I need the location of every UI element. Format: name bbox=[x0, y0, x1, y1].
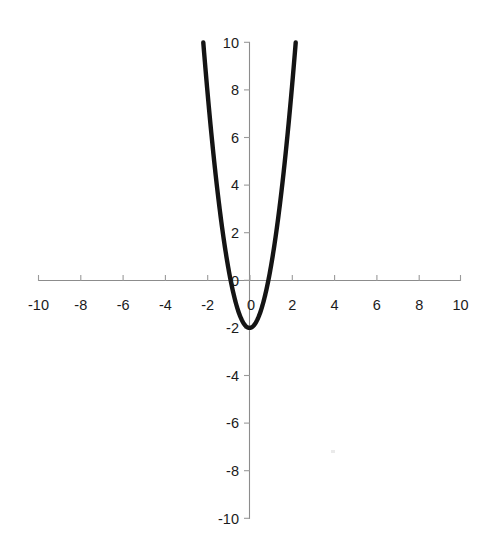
x-tick-label: 2 bbox=[288, 297, 296, 313]
y-tick-label: -8 bbox=[226, 463, 239, 479]
x-tick-label: 8 bbox=[415, 297, 423, 313]
y-tick-label: -10 bbox=[218, 511, 239, 527]
x-tick-label: -6 bbox=[117, 297, 130, 313]
y-tick-label: 10 bbox=[223, 35, 239, 51]
x-tick-label: -10 bbox=[28, 297, 49, 313]
x-tick-label: 0 bbox=[247, 297, 255, 313]
y-tick-label: 6 bbox=[231, 130, 239, 146]
y-tick-label: -6 bbox=[226, 415, 239, 431]
x-tick-label: 6 bbox=[373, 297, 381, 313]
y-tick-label: 8 bbox=[231, 82, 239, 98]
x-tick-label: -2 bbox=[201, 297, 214, 313]
y-tick-label: 4 bbox=[231, 177, 239, 193]
parabola-plot: -10 -8 -6 -4 -2 0 2 4 6 8 10 10 8 6 4 2 … bbox=[0, 0, 499, 555]
x-tick-label: -4 bbox=[159, 297, 172, 313]
y-tick-label: 0 bbox=[231, 273, 239, 289]
x-tick-label: -8 bbox=[74, 297, 87, 313]
x-tick-label: 4 bbox=[331, 297, 339, 313]
chart-canvas: -10 -8 -6 -4 -2 0 2 4 6 8 10 10 8 6 4 2 … bbox=[0, 0, 499, 555]
x-axis-tick-labels: -10 -8 -6 -4 -2 0 2 4 6 8 10 bbox=[28, 297, 469, 313]
y-tick-label: -4 bbox=[226, 368, 239, 384]
x-tick-label: 10 bbox=[452, 297, 468, 313]
y-tick-label: -2 bbox=[226, 320, 239, 336]
y-tick-label: 2 bbox=[231, 225, 239, 241]
